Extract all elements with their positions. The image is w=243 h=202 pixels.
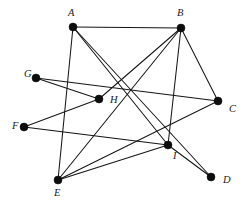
graph-edge-a-e [58, 27, 73, 180]
graph-edge-c-e [58, 101, 218, 180]
graph-vertex-label-f: F [11, 120, 19, 131]
graph-edge-a-i [73, 27, 168, 145]
graph-vertex-d [207, 173, 215, 181]
graph-edge-b-h [99, 28, 181, 99]
graph-edge-a-b [73, 27, 181, 28]
graph-svg: ABCDEFGHI [0, 0, 243, 202]
graph-vertex-label-g: G [24, 68, 32, 79]
graph-vertex-label-c: C [229, 103, 237, 114]
graph-vertex-h [95, 95, 103, 103]
graph-vertex-e [54, 176, 62, 184]
graph-vertex-label-d: D [222, 174, 231, 185]
graph-vertex-label-a: A [67, 7, 75, 18]
graph-vertex-label-e: E [53, 187, 61, 198]
graph-vertex-b [177, 24, 185, 32]
graph-vertex-f [20, 123, 28, 131]
graph-vertex-g [32, 74, 40, 82]
graph-edge-b-e [58, 28, 181, 180]
graph-edge-a-d [73, 27, 211, 177]
edge-layer [24, 27, 218, 180]
graph-vertex-label-h: H [109, 94, 119, 105]
graph-edge-f-h [24, 99, 99, 127]
graph-edge-c-g [36, 78, 218, 101]
graph-vertex-i [164, 141, 172, 149]
graph-vertex-a [69, 23, 77, 31]
graph-vertex-label-i: I [172, 150, 177, 161]
graph-edge-e-i [58, 145, 168, 180]
label-layer: ABCDEFGHI [11, 7, 237, 198]
graph-vertex-label-b: B [177, 7, 184, 18]
graph-edge-b-i [168, 28, 181, 145]
graph-vertex-c [214, 97, 222, 105]
graph-edge-b-c [181, 28, 218, 101]
graph-diagram-canvas: ABCDEFGHI [0, 0, 243, 202]
